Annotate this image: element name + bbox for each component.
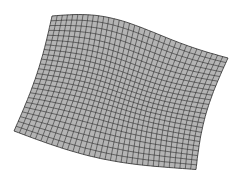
quad-mesh-surface [0,0,239,185]
mesh-figure [0,0,239,185]
